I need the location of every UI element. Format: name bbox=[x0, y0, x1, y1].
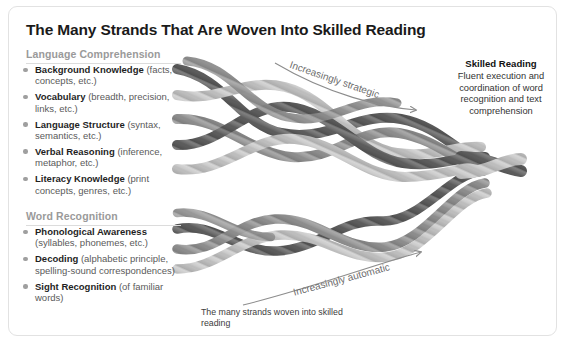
strand-name: Language Structure bbox=[35, 119, 125, 130]
lower-rope-group bbox=[177, 171, 487, 269]
list-item: Vocabulary (breadth, precision, links, e… bbox=[21, 91, 189, 114]
list-item: Sight Recognition (of familiar words) bbox=[21, 281, 189, 304]
label-increasingly-strategic: Increasingly strategic bbox=[288, 59, 380, 100]
strand-detail: (syllables, phonemes, etc.) bbox=[35, 237, 148, 248]
page-title: The Many Strands That Are Woven Into Ski… bbox=[26, 21, 426, 39]
merged-rope-end bbox=[461, 157, 521, 173]
diagram-frame: The Many Strands That Are Woven Into Ski… bbox=[8, 6, 557, 336]
strand-name: Verbal Reasoning bbox=[35, 146, 115, 157]
bullet-icon bbox=[23, 257, 28, 262]
bullet-icon bbox=[23, 149, 28, 154]
list-item: Background Knowledge (facts, concepts, e… bbox=[21, 64, 189, 87]
bottom-caption: The many strands woven into skilled read… bbox=[201, 307, 351, 328]
list-item: Decoding (alphabetic principle, spelling… bbox=[21, 253, 189, 276]
list-item: Phonological Awareness (syllables, phone… bbox=[21, 226, 189, 249]
bullet-icon bbox=[23, 230, 28, 235]
skilled-reading-block: Skilled Reading Fluent execution and coo… bbox=[439, 58, 557, 117]
strand-name: Vocabulary bbox=[35, 91, 86, 102]
strand-list-language-comprehension: Background Knowledge (facts, concepts, e… bbox=[21, 64, 189, 201]
label-increasingly-automatic: Increasingly automatic bbox=[292, 261, 391, 297]
strand-name: Background Knowledge bbox=[35, 64, 144, 75]
list-item: Literacy Knowledge (print concepts, genr… bbox=[21, 173, 189, 196]
skilled-reading-title: Skilled Reading bbox=[439, 58, 557, 69]
strand-name: Phonological Awareness bbox=[35, 226, 147, 237]
list-item: Verbal Reasoning (inference, metaphor, e… bbox=[21, 146, 189, 169]
bullet-icon bbox=[23, 177, 28, 182]
strand-name: Decoding bbox=[35, 253, 78, 264]
list-item: Language Structure (syntax, semantics, e… bbox=[21, 119, 189, 142]
bullet-icon bbox=[23, 122, 28, 127]
section-heading-word-recognition: Word Recognition bbox=[26, 210, 181, 226]
section-heading-language-comprehension: Language Comprehension bbox=[26, 48, 181, 64]
strand-list-word-recognition: Phonological Awareness (syllables, phone… bbox=[21, 226, 189, 308]
strand-name: Sight Recognition bbox=[35, 281, 116, 292]
bullet-icon bbox=[23, 284, 28, 289]
strand-name: Literacy Knowledge bbox=[35, 173, 125, 184]
skilled-reading-description: Fluent execution and coordination of wor… bbox=[439, 71, 557, 117]
bullet-icon bbox=[23, 68, 28, 73]
bullet-icon bbox=[23, 95, 28, 100]
